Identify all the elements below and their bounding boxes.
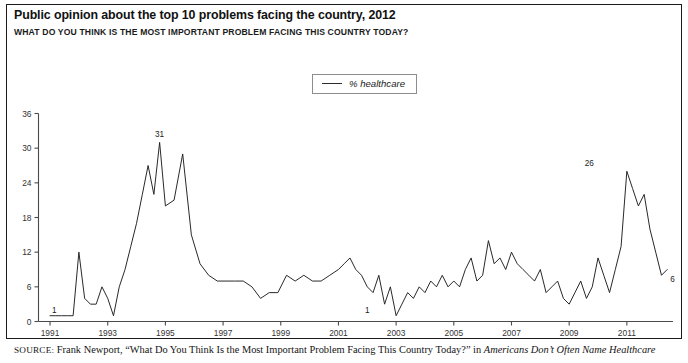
svg-text:12: 12: [22, 247, 32, 257]
svg-text:2005: 2005: [444, 328, 463, 338]
chart-annotations: 1311266: [52, 130, 675, 314]
svg-text:1993: 1993: [98, 328, 117, 338]
data-point-label: 1: [52, 306, 57, 315]
svg-text:1997: 1997: [214, 328, 233, 338]
data-point-label: 31: [155, 130, 165, 139]
svg-text:6: 6: [27, 282, 32, 292]
svg-text:1991: 1991: [41, 328, 60, 338]
chart-axes: 0612182430361991199319951997199920012003…: [22, 109, 673, 338]
svg-text:2007: 2007: [502, 328, 521, 338]
source-publication-title: Americans Don’t Often Name Healthcare: [484, 344, 656, 355]
source-text: Frank Newport, “What Do You Think Is the…: [54, 344, 484, 355]
source-kicker: SOURCE:: [14, 345, 54, 355]
series-line--healthcare: [50, 142, 667, 315]
svg-text:30: 30: [22, 143, 32, 153]
svg-text:2009: 2009: [560, 328, 579, 338]
svg-text:1995: 1995: [156, 328, 175, 338]
svg-text:2003: 2003: [387, 328, 406, 338]
svg-text:0: 0: [27, 317, 32, 327]
data-point-label: 6: [670, 275, 675, 284]
svg-text:36: 36: [22, 109, 32, 119]
svg-text:2001: 2001: [329, 328, 348, 338]
source-note: SOURCE: Frank Newport, “What Do You Thin…: [14, 344, 678, 356]
svg-text:18: 18: [22, 213, 32, 223]
line-chart-plot: 0612182430361991199319951997199920012003…: [0, 0, 688, 339]
chart-series: [50, 142, 667, 315]
svg-text:1999: 1999: [271, 328, 290, 338]
svg-text:24: 24: [22, 178, 32, 188]
figure-page: Public opinion about the top 10 problems…: [0, 0, 688, 363]
data-point-label: 26: [585, 159, 595, 168]
data-point-label: 1: [365, 306, 370, 315]
svg-text:2011: 2011: [618, 328, 636, 338]
